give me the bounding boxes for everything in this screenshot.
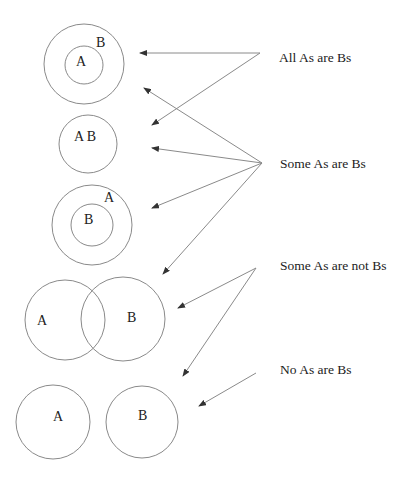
arrows-all <box>140 53 260 125</box>
arrows-some-not <box>178 268 256 376</box>
label-ab: A B <box>74 129 96 144</box>
arrows-some <box>144 88 262 274</box>
arrow-all-to-fig2 <box>152 53 260 125</box>
statement-some-as-are-bs: Some As are Bs <box>280 156 366 171</box>
statement-no-as-are-bs: No As are Bs <box>280 362 352 377</box>
arrow-some-to-fig4 <box>163 163 262 274</box>
figure-b-contains-a: B A <box>44 24 124 104</box>
arrow-some-to-fig1 <box>144 88 262 163</box>
arrow-none-to-fig5 <box>199 373 256 406</box>
arrow-somenot-to-fig4 <box>178 268 256 308</box>
label-b: B <box>84 212 93 227</box>
label-a: A <box>53 409 64 424</box>
arrows-none <box>199 373 256 406</box>
figure-overlap: A B <box>25 277 165 361</box>
label-a: A <box>37 313 48 328</box>
label-b: B <box>138 408 147 423</box>
label-a: A <box>76 54 87 69</box>
circle-ab <box>59 115 117 173</box>
statement-some-as-are-not-bs: Some As are not Bs <box>280 258 387 273</box>
arrow-some-to-fig2 <box>152 148 262 163</box>
label-b: B <box>127 310 136 325</box>
statement-all-as-are-bs: All As are Bs <box>279 50 351 65</box>
arrow-some-to-fig3 <box>152 163 262 208</box>
arrow-somenot-to-fig5 <box>183 268 256 376</box>
figure-disjoint: A B <box>16 385 178 459</box>
circle-b <box>81 277 165 361</box>
figure-a-equals-b: A B <box>59 115 117 173</box>
label-a: A <box>104 190 115 205</box>
label-b: B <box>96 35 105 50</box>
figure-a-contains-b: A B <box>52 185 132 265</box>
syllogism-venn-diagram: B A A B A B A B A B <box>0 0 410 482</box>
